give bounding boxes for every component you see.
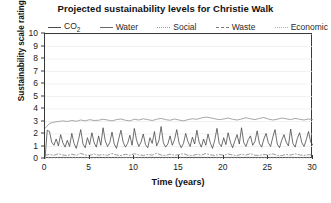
- x-tick-label: 10: [129, 163, 138, 172]
- y-tick-label: 4: [17, 104, 38, 113]
- chart-title: Projected sustainability levels for Chri…: [0, 3, 331, 14]
- y-axis-ticks: 012345678910: [20, 33, 41, 158]
- x-tick-mark: [44, 155, 45, 159]
- legend-item-economic: Economic: [275, 22, 328, 32]
- x-axis-title: Time (years): [44, 177, 312, 187]
- legend-item-water: Water: [100, 22, 138, 32]
- legend-line-icon-co2: [48, 24, 61, 30]
- y-tick-label: 9: [17, 41, 38, 50]
- x-tick-mark: [267, 155, 268, 159]
- legend-line-icon-waste: [216, 24, 229, 30]
- x-tick-mark: [133, 155, 134, 159]
- legend-item-social: Social: [157, 22, 196, 32]
- series-line-water: [45, 117, 313, 128]
- y-tick-label: 1: [17, 141, 38, 150]
- legend-line-icon-social: [157, 24, 170, 30]
- legend-item-waste: Waste: [216, 22, 256, 32]
- x-tick-mark: [223, 155, 224, 159]
- x-tick-label: 15: [173, 163, 182, 172]
- x-tick-label: 0: [42, 163, 47, 172]
- legend-label-waste: Waste: [232, 22, 256, 32]
- x-tick-label: 30: [307, 163, 316, 172]
- legend-label-social: Social: [173, 22, 196, 32]
- y-tick-label: 2: [17, 129, 38, 138]
- chart-legend: CO2 Water Social Waste Economic: [48, 20, 328, 33]
- y-tick-label: 3: [17, 116, 38, 125]
- y-tick-label: 6: [17, 79, 38, 88]
- legend-item-co2: CO2: [48, 21, 80, 33]
- y-tick-label: 5: [17, 91, 38, 100]
- plot-area: [44, 33, 312, 158]
- legend-label-water: Water: [116, 22, 138, 32]
- y-tick-label: 8: [17, 54, 38, 63]
- x-tick-mark: [312, 155, 313, 159]
- x-tick-mark: [89, 155, 90, 159]
- legend-label-co2: CO2: [64, 21, 80, 33]
- legend-label-economic: Economic: [291, 22, 328, 32]
- legend-line-icon-water: [100, 24, 113, 30]
- y-tick-label: 7: [17, 66, 38, 75]
- series-line-social: [45, 157, 313, 158]
- x-tick-label: 5: [86, 163, 91, 172]
- y-tick-label: 10: [17, 29, 38, 38]
- chart-container: Projected sustainability levels for Chri…: [0, 0, 331, 203]
- x-tick-label: 20: [218, 163, 227, 172]
- x-tick-label: 25: [263, 163, 272, 172]
- legend-line-icon-economic: [275, 24, 288, 30]
- x-tick-mark: [178, 155, 179, 159]
- series-line-waste: [45, 153, 313, 155]
- plot-lines: [45, 34, 313, 159]
- y-tick-label: 0: [17, 154, 38, 163]
- x-axis-ticks: 051015202530: [44, 159, 312, 173]
